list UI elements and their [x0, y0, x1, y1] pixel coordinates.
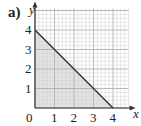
- x-tick-label: 1: [51, 110, 58, 126]
- x-axis-label: x: [133, 106, 139, 122]
- y-tick-label: 2: [25, 61, 32, 77]
- part-label: a): [8, 4, 21, 21]
- x-tick-label: 2: [71, 110, 78, 126]
- y-tick-label: 4: [25, 22, 32, 38]
- y-tick-label: 3: [25, 42, 32, 58]
- y-axis-label: y: [29, 2, 35, 18]
- chart-figure: [0, 0, 141, 126]
- x-tick-label: 4: [110, 110, 117, 126]
- x-tick-label: 3: [90, 110, 97, 126]
- y-tick-label: 1: [25, 81, 32, 97]
- x-tick-label: 0: [26, 110, 33, 126]
